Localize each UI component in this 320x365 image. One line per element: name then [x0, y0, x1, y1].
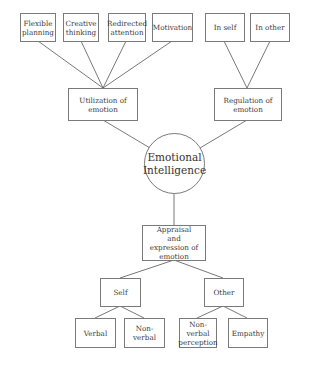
node-non-verbal: Non-verbal — [124, 318, 165, 348]
edge-self-nonverbal — [120, 306, 144, 318]
edge-regulation-ei — [200, 120, 247, 148]
node-other: Other — [204, 278, 244, 307]
node-motivation: Motivation — [152, 13, 193, 42]
node-verbal: Verbal — [75, 318, 116, 348]
edge-other-empathy — [223, 306, 247, 318]
edge-appraisal-self — [120, 260, 174, 278]
edge-flexible-utilization — [38, 41, 103, 88]
edge-creative-utilization — [81, 41, 103, 88]
node-regulation-of-emotion: Regulation of emotion — [214, 88, 282, 121]
node-empathy: Empathy — [228, 318, 268, 348]
node-utilization-of-emotion: Utilization of emotion — [68, 88, 138, 121]
edge-self-verbal — [95, 306, 120, 318]
node-redirected-attention: Redirected attention — [108, 13, 146, 42]
edge-utilization-ei — [103, 120, 150, 148]
node-self: Self — [100, 278, 141, 307]
node-in-other: In other — [250, 13, 290, 42]
node-flexible-planning: Flexible planning — [20, 13, 56, 42]
node-in-self: In self — [205, 13, 245, 42]
edge-motivation-utilization — [103, 41, 172, 88]
edge-redirected-utilization — [103, 41, 126, 88]
node-non-verbal-perception: Non-verbal perception — [179, 318, 217, 348]
node-emotional-intelligence: Emotional Intelligence — [144, 133, 205, 194]
edge-inself-regulation — [224, 41, 247, 88]
edge-appraisal-other — [174, 260, 223, 278]
edge-other-nvperception — [197, 306, 223, 318]
node-appraisal-and-expression: Appraisal and expression of emotion — [142, 225, 206, 261]
node-creative-thinking: Creative thinking — [63, 13, 99, 42]
edge-inother-regulation — [247, 41, 270, 88]
